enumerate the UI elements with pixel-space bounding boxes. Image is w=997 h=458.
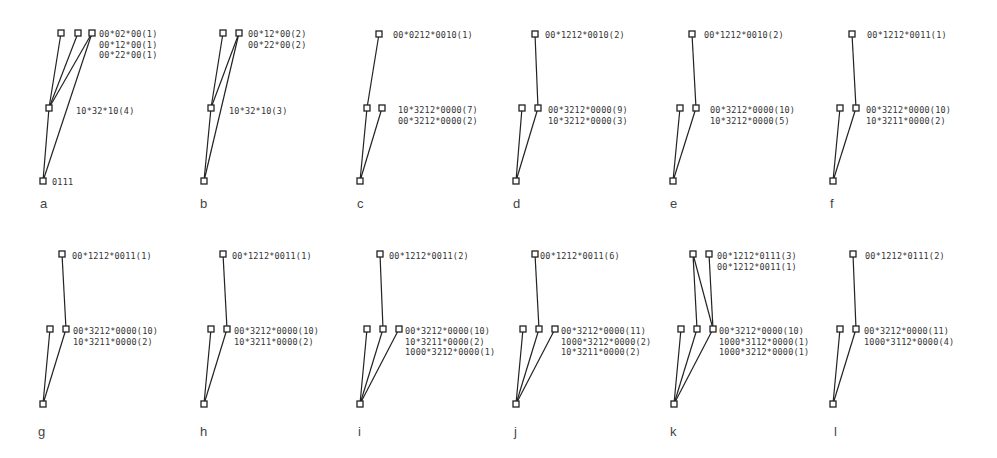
top-node-label: 00*12*00(2) <box>248 29 307 39</box>
mid-node-label: 10*3211*0000(2) <box>561 347 641 357</box>
node-mid <box>853 326 859 332</box>
panel-e <box>670 31 699 184</box>
mid-node-label: 10*3211*0000(2) <box>73 337 153 347</box>
node-mid <box>837 326 843 332</box>
mid-node-label: 00*3212*0000(11) <box>561 326 646 336</box>
mid-node-label: 10*3211*0000(2) <box>866 116 946 126</box>
panel-f <box>830 31 859 184</box>
mid-node-label: 1000*3212*0000(2) <box>561 337 651 347</box>
mid-node-label: 10*3211*0000(2) <box>234 337 314 347</box>
mid-node-label: 00*3212*0000(10) <box>73 326 158 336</box>
node-mid <box>536 326 542 332</box>
node-bottom <box>830 178 836 184</box>
top-node-label: 00*02*00(1) <box>99 29 158 39</box>
panel-c <box>357 31 385 184</box>
mid-node-label: 1000*3112*0000(4) <box>864 337 954 347</box>
mid-node-label: 00*3212*0000(10) <box>710 105 795 115</box>
top-node-label: 00*1212*0010(2) <box>704 30 784 40</box>
node-top <box>706 251 712 257</box>
top-node-label: 00*1212*0111(3) <box>717 251 797 261</box>
node-mid <box>678 326 684 332</box>
node-mid <box>63 326 69 332</box>
edge <box>852 34 856 108</box>
node-bottom <box>513 401 519 407</box>
node-mid <box>208 326 214 332</box>
node-top <box>849 31 855 37</box>
top-node-label: 00*1212*0011(1) <box>232 251 312 261</box>
panel-letter: i <box>358 424 361 439</box>
mid-node-label: 00*3212*0000(10) <box>405 326 490 336</box>
node-mid <box>46 105 52 111</box>
node-mid <box>519 105 525 111</box>
node-top <box>220 30 226 36</box>
node-bottom <box>357 401 363 407</box>
top-node-label: 00*12*00(1) <box>99 40 158 50</box>
node-top <box>75 30 81 36</box>
node-mid <box>208 105 214 111</box>
panel-letter: e <box>670 196 677 211</box>
mid-node-label: 10*3212*0000(5) <box>710 116 790 126</box>
panel-letter: f <box>830 196 834 211</box>
panel-letter: c <box>357 196 364 211</box>
top-node-label: 00*0212*0010(1) <box>393 30 473 40</box>
mid-node-label: 10*3212*0000(7) <box>398 105 478 115</box>
top-node-label: 00*1212*0011(1) <box>867 30 947 40</box>
node-top <box>850 251 856 257</box>
top-node-label: 00*1212*0011(2) <box>389 251 469 261</box>
mid-node-label: 00*3212*0000(10) <box>234 326 319 336</box>
node-top <box>376 31 382 37</box>
edge <box>853 254 856 329</box>
panel-letter: a <box>40 196 47 211</box>
panel-letter: g <box>38 424 45 439</box>
node-mid <box>677 105 683 111</box>
panel-g <box>40 251 69 407</box>
panel-letter: b <box>200 196 207 211</box>
node-mid <box>693 105 699 111</box>
edge <box>535 34 538 108</box>
node-mid <box>396 326 402 332</box>
edge <box>62 254 66 329</box>
mid-node-label: 00*3212*0000(2) <box>398 116 478 126</box>
edge <box>535 254 539 329</box>
mid-node-label: 00*3212*0000(10) <box>866 105 951 115</box>
node-top <box>59 251 65 257</box>
node-top <box>220 251 226 257</box>
panel-h <box>201 251 230 407</box>
node-mid <box>364 105 370 111</box>
node-bottom <box>201 178 207 184</box>
edge <box>49 33 78 108</box>
mid-node-label: 10*3211*0000(2) <box>405 337 485 347</box>
node-top <box>532 251 538 257</box>
panel-letter: j <box>514 424 517 439</box>
node-top <box>58 30 64 36</box>
panel-d <box>513 31 541 184</box>
panel-letter: h <box>200 424 207 439</box>
edge <box>211 33 223 108</box>
panel-i <box>357 251 402 407</box>
node-mid <box>694 326 700 332</box>
node-mid <box>224 326 230 332</box>
panel-k <box>671 251 716 407</box>
top-node-label: 00*1212*0010(2) <box>545 30 625 40</box>
mid-node-label: 10*32*10(4) <box>76 106 135 116</box>
node-mid <box>520 326 526 332</box>
mid-node-label: 00*3212*0000(11) <box>864 326 949 336</box>
edge <box>692 34 696 108</box>
edge <box>367 34 379 108</box>
node-top <box>236 30 242 36</box>
top-node-label: 00*1212*0011(1) <box>717 262 797 272</box>
panel-letter: k <box>670 424 677 439</box>
node-mid <box>552 326 558 332</box>
top-node-label: 00*1212*0111(2) <box>865 251 945 261</box>
panel-letter: l <box>834 424 837 439</box>
top-node-label: 00*22*00(1) <box>99 50 158 60</box>
panel-letter: d <box>513 196 520 211</box>
mid-node-label: 00*3212*0000(9) <box>548 105 628 115</box>
top-node-label: 00*1212*0011(1) <box>72 251 152 261</box>
node-bottom <box>40 401 46 407</box>
node-bottom <box>671 401 677 407</box>
node-mid <box>47 326 53 332</box>
node-bottom <box>357 178 363 184</box>
node-mid <box>853 105 859 111</box>
mid-node-label: 10*32*10(3) <box>229 106 288 116</box>
